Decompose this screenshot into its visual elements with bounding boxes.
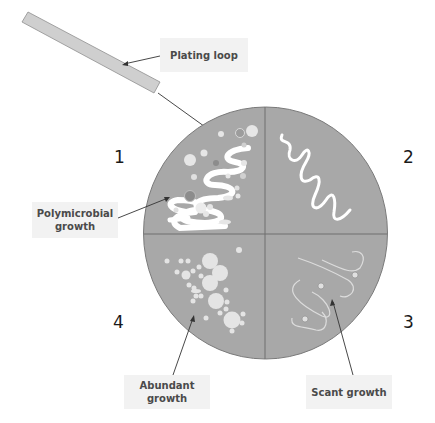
plating-loop-arrow xyxy=(124,56,160,64)
plating-loop xyxy=(22,12,160,93)
quadrant-3-number: 3 xyxy=(403,312,414,332)
polymicrobial-line1: Polymicrobial xyxy=(37,207,113,220)
quadrant-2-number: 2 xyxy=(403,147,414,167)
abundant-growth-label: Abundant growth xyxy=(124,375,210,409)
agar-plate xyxy=(144,107,388,359)
polymicrobial-line2: growth xyxy=(55,220,95,233)
quadrant-1-number: 1 xyxy=(114,147,125,167)
scant-growth-label: Scant growth xyxy=(306,375,392,409)
quadrant-4-number: 4 xyxy=(113,312,124,332)
polymicrobial-growth-label: Polymicrobial growth xyxy=(32,202,118,238)
plating-loop-label: Plating loop xyxy=(160,38,248,72)
abundant-pointer xyxy=(173,318,193,375)
